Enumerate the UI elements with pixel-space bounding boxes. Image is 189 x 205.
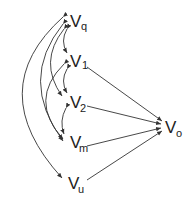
node-v1: V 1 — [70, 52, 88, 71]
node-vo: V o — [165, 118, 182, 139]
path-diagram: V q V 1 V 2 V m V u V o — [0, 0, 189, 205]
node-vm: V m — [70, 133, 88, 154]
correlation-arcs — [22, 17, 67, 178]
edges-to-vo — [87, 67, 162, 180]
node-vq: V q — [70, 12, 87, 32]
arc-vq-vm — [41, 24, 64, 141]
arc-v1-vm — [46, 64, 64, 139]
arc-v2-vm — [62, 108, 66, 134]
svg-text:V: V — [70, 52, 82, 71]
node-v2: V 2 — [70, 93, 86, 114]
svg-text:u: u — [78, 183, 84, 195]
arc-vq-v1 — [64, 29, 68, 53]
edge-v1-vo — [87, 67, 162, 121]
edge-vm-vo — [87, 128, 161, 146]
arc-v1-v2 — [64, 69, 68, 93]
svg-text:2: 2 — [80, 102, 86, 114]
svg-text:1: 1 — [82, 59, 88, 71]
edge-vu-vo — [87, 131, 162, 180]
svg-text:m: m — [79, 142, 88, 154]
edge-v2-vo — [87, 106, 161, 124]
node-vu: V u — [68, 174, 84, 195]
svg-text:o: o — [176, 127, 182, 139]
svg-text:q: q — [81, 20, 87, 32]
